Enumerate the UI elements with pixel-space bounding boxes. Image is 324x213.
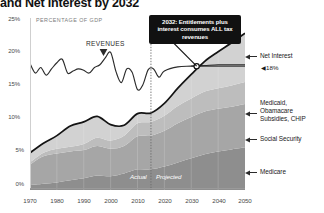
x-tick-2050: 2050 (232, 197, 258, 204)
chart-title: and Net Interest by 2032 (0, 0, 250, 10)
y-axis-line (30, 18, 31, 188)
actual-label: Actual (130, 173, 147, 180)
projected-label: Projected (156, 173, 181, 180)
medicare-arrow-icon (245, 170, 251, 176)
revenue-18pct-marker: ◀18% (261, 64, 278, 71)
medicaid-line-2: Obamacare (260, 107, 306, 115)
x-tick-1980: 1980 (44, 197, 70, 204)
series-label-medicaid: Medicaid, Obamacare Subsidies, CHIP (260, 99, 306, 124)
x-tick-1990: 1990 (71, 197, 97, 204)
medicaid-line-1: Medicaid, (260, 99, 306, 107)
x-tick-1970: 1970 (17, 197, 43, 204)
y-tick-20: 20% (2, 48, 20, 54)
y-tick-15: 15% (2, 81, 20, 87)
x-tick-2010: 2010 (125, 197, 151, 204)
x-tick-2040: 2040 (206, 197, 232, 204)
y-tick-25: 25% (2, 16, 20, 22)
medicaid-line-3: Subsidies, CHIP (260, 115, 306, 123)
series-label-social-security: Social Security (260, 135, 302, 143)
chart-root: and Net Interest by 2032 PERCENTAGE OF G… (0, 0, 324, 213)
revenues-label: REVENUES (86, 40, 125, 47)
series-label-net-interest: Net Interest (260, 52, 292, 60)
x-tick-2020: 2020 (152, 197, 178, 204)
net-interest-arrow-icon (245, 54, 251, 60)
chart-svg (30, 18, 245, 190)
social-security-arrow-icon (245, 137, 251, 143)
x-tick-2000: 2000 (98, 197, 124, 204)
x-axis-line (30, 188, 245, 189)
revenues-arrow-icon (99, 48, 108, 56)
series-label-medicare: Medicare (260, 168, 286, 176)
x-tick-2030: 2030 (179, 197, 205, 204)
medicaid-arrow-icon (245, 111, 251, 117)
callout-box: 2032: Entitlements plus interest consume… (149, 15, 241, 44)
y-tick-0: 0% (6, 181, 24, 187)
y-tick-5: 5% (6, 147, 24, 153)
y-tick-10: 10% (2, 114, 20, 120)
